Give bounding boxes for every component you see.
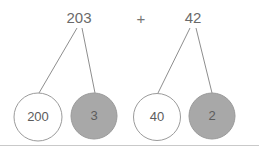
total-label-42: 42 xyxy=(185,9,202,26)
branch-line-203-to-200 xyxy=(39,28,77,93)
total-label-203: 203 xyxy=(66,9,91,26)
branch-line-42-to-40 xyxy=(158,28,190,93)
part-label-40: 40 xyxy=(150,109,164,124)
part-label-200: 200 xyxy=(27,109,49,124)
addend-group-203: 203 200 3 xyxy=(14,9,117,141)
part-label-3: 3 xyxy=(90,108,97,123)
plus-operator-icon: + xyxy=(137,10,146,27)
addend-group-42: 42 40 2 xyxy=(134,9,236,141)
branch-line-203-to-3 xyxy=(82,28,95,93)
diagram-canvas: 203 200 3 + 42 40 2 xyxy=(0,0,259,146)
part-label-2: 2 xyxy=(208,108,215,123)
number-bond-diagram: 203 200 3 + 42 40 2 xyxy=(0,0,259,146)
branch-line-42-to-2 xyxy=(196,28,212,93)
